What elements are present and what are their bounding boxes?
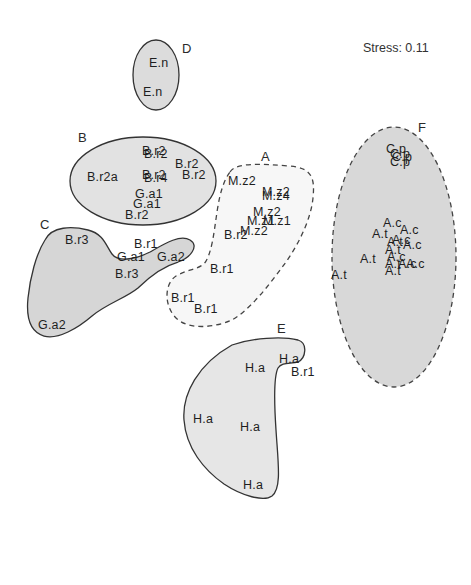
point-label: A.t	[372, 228, 388, 241]
point-label: H.a	[193, 413, 213, 426]
point-label: A.c	[403, 239, 422, 252]
point-label: B.r1	[171, 292, 195, 305]
point-label: B.r4	[144, 172, 168, 185]
nmds-plot	[0, 0, 471, 585]
point-label: B.r1	[291, 366, 315, 379]
point-label: B.r3	[115, 268, 139, 281]
point-label: H.a	[243, 479, 263, 492]
group-label-d: D	[182, 42, 191, 55]
point-label: H.a	[279, 353, 299, 366]
group-label-e: E	[277, 322, 286, 335]
point-label: B.r2	[144, 148, 168, 161]
point-label: A.c	[406, 258, 425, 271]
point-label: B.r1	[194, 303, 218, 316]
point-label: G.a2	[157, 251, 185, 264]
point-label: G.a2	[38, 319, 66, 332]
group-d-outline	[133, 40, 179, 110]
point-label: A.t	[360, 253, 376, 266]
point-label: M.z2	[228, 175, 256, 188]
point-label: M.z4	[262, 190, 290, 203]
group-label-c: C	[40, 218, 49, 231]
point-label: B.r3	[65, 234, 89, 247]
point-label: B.r2a	[87, 171, 118, 184]
point-label: B.r1	[210, 263, 234, 276]
point-label: A.t	[331, 269, 347, 282]
point-label: G.a1	[117, 251, 145, 264]
point-label: B.r2	[182, 169, 206, 182]
group-label-f: F	[418, 121, 426, 134]
group-label-a: A	[261, 150, 270, 163]
point-label: E.n	[143, 86, 162, 99]
point-label: C.p	[390, 156, 410, 169]
point-label: H.a	[240, 421, 260, 434]
point-label: B.r2	[125, 209, 149, 222]
point-label: B.r2	[224, 229, 248, 242]
point-label: H.a	[245, 362, 265, 375]
point-label: B.r1	[134, 238, 158, 251]
point-label: A.t	[385, 265, 401, 278]
stress-value: Stress: 0.11	[363, 42, 429, 55]
group-label-b: B	[78, 131, 87, 144]
point-label: E.n	[149, 57, 168, 70]
